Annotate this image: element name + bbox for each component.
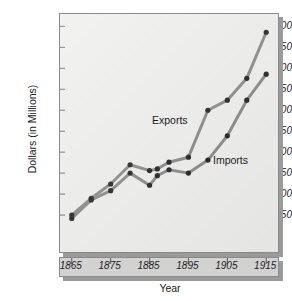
line-chart-figure: Dollars (in Millions) 250500750100012501… bbox=[0, 0, 292, 301]
data-point-marker bbox=[128, 162, 133, 167]
data-point-marker bbox=[244, 76, 249, 81]
x-axis-tick-label: 1885 bbox=[127, 260, 171, 271]
y-axis-title: Dollars (in Millions) bbox=[26, 44, 38, 214]
data-point-marker bbox=[186, 155, 191, 160]
data-point-marker bbox=[147, 168, 152, 173]
plot-panel bbox=[59, 13, 279, 253]
x-axis-tick-label: 1895 bbox=[165, 260, 209, 271]
data-point-marker bbox=[205, 108, 210, 113]
x-axis-tick-label: 1915 bbox=[243, 260, 287, 271]
x-axis-tick-label: 1875 bbox=[88, 260, 132, 271]
data-point-marker bbox=[205, 158, 210, 163]
data-point-marker bbox=[166, 167, 171, 172]
x-axis-tick-label: 1865 bbox=[49, 260, 93, 271]
data-point-marker bbox=[225, 98, 230, 103]
data-point-marker bbox=[186, 171, 191, 176]
series-label-imports: Imports bbox=[213, 154, 248, 166]
series-line-imports bbox=[72, 74, 266, 218]
data-point-marker bbox=[128, 171, 133, 176]
series-label-exports: Exports bbox=[152, 114, 188, 126]
data-point-marker bbox=[108, 188, 113, 193]
x-axis-title: Year bbox=[56, 282, 284, 294]
data-point-marker bbox=[225, 133, 230, 138]
x-axis-tick-label: 1905 bbox=[204, 260, 248, 271]
data-point-marker bbox=[155, 166, 160, 171]
data-point-marker bbox=[264, 30, 269, 35]
data-point-marker bbox=[108, 181, 113, 186]
data-point-marker bbox=[69, 216, 74, 221]
data-point-marker bbox=[244, 98, 249, 103]
plot-area-svg bbox=[60, 14, 278, 252]
data-point-marker bbox=[89, 197, 94, 202]
data-point-marker bbox=[264, 72, 269, 77]
data-point-marker bbox=[166, 160, 171, 165]
y-axis-ticks bbox=[60, 26, 65, 215]
data-point-marker bbox=[155, 173, 160, 178]
data-point-marker bbox=[147, 183, 152, 188]
